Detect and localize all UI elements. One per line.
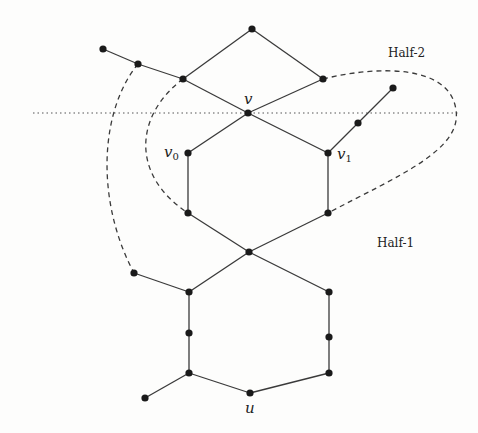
vertex-v0 <box>184 149 191 156</box>
vertices <box>99 25 396 401</box>
label-v1: v1 <box>337 145 352 164</box>
edge <box>138 64 183 79</box>
label-half-1: Half-1 <box>377 236 414 250</box>
vertex <box>325 369 332 376</box>
label-v0: v0 <box>164 143 179 162</box>
vertex <box>185 288 192 295</box>
edge <box>189 373 250 393</box>
edge <box>145 373 189 398</box>
edge <box>103 49 138 64</box>
edge <box>249 252 329 292</box>
vertex <box>184 209 191 216</box>
solid-edges <box>103 29 393 398</box>
edge <box>189 252 249 292</box>
graph-diagram: v v0 v1 u Half-2 Half-1 <box>0 0 478 433</box>
edge <box>250 373 329 393</box>
vertex <box>319 75 326 82</box>
edge <box>188 213 249 252</box>
edge <box>183 79 248 113</box>
vertex <box>185 369 192 376</box>
edge <box>358 88 393 123</box>
vertex <box>99 45 106 52</box>
vertex <box>248 25 255 32</box>
edge <box>248 79 323 113</box>
graph-svg: v v0 v1 u Half-2 Half-1 <box>0 0 478 433</box>
vertex <box>134 60 141 67</box>
edge <box>134 273 189 292</box>
edge <box>249 213 328 252</box>
edge <box>248 113 328 153</box>
vertex <box>185 329 192 336</box>
vertex <box>325 288 332 295</box>
edge <box>188 113 248 153</box>
outer-left-dashed-curve <box>107 64 138 273</box>
vertex <box>389 84 396 91</box>
label-v: v <box>244 90 253 108</box>
label-u: u <box>245 399 255 417</box>
vertex-u <box>246 389 253 396</box>
edge <box>183 29 252 79</box>
vertex <box>325 333 332 340</box>
vertex <box>324 209 331 216</box>
vertex-v <box>244 109 251 116</box>
edge <box>252 29 323 79</box>
label-half-2: Half-2 <box>388 46 425 60</box>
vertex <box>245 248 252 255</box>
vertex <box>141 394 148 401</box>
vertex-v1 <box>324 149 331 156</box>
vertex <box>179 75 186 82</box>
vertex <box>130 269 137 276</box>
vertex <box>354 119 361 126</box>
